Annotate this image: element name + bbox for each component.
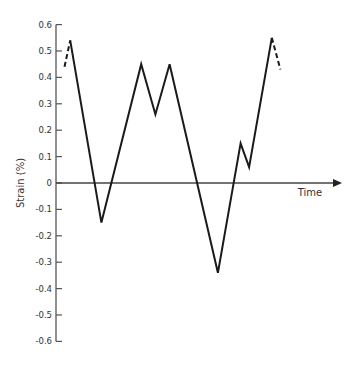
y-tick-label: -0.5 — [35, 310, 52, 320]
y-tick-label: -0.4 — [35, 284, 52, 294]
y-tick-label: 0.6 — [38, 20, 52, 30]
strain-line — [70, 38, 272, 273]
y-tick-label: 0.5 — [38, 46, 52, 56]
y-tick-label: 0.3 — [38, 99, 52, 109]
dashed-continuation-line — [272, 38, 281, 70]
x-axis-title: Time — [297, 187, 322, 198]
y-tick-label: 0.1 — [38, 152, 52, 162]
x-axis — [56, 179, 342, 187]
y-tick-label: 0.4 — [38, 72, 52, 82]
y-tick-label: -0.6 — [35, 336, 52, 346]
y-tick-label: -0.1 — [35, 204, 52, 214]
strain-time-chart: 0.60.50.40.30.20.10-0.1-0.2-0.3-0.4-0.5-… — [0, 0, 349, 367]
y-tick-label: 0.2 — [38, 125, 52, 135]
y-tick-label: -0.2 — [35, 231, 52, 241]
dashed-continuation-line — [65, 40, 71, 66]
x-axis-arrow-icon — [333, 179, 342, 187]
strain-series — [65, 38, 281, 273]
y-tick-label: 0 — [47, 178, 52, 188]
y-axis-title: Strain (%) — [15, 158, 26, 208]
y-tick-label: -0.3 — [35, 257, 52, 267]
